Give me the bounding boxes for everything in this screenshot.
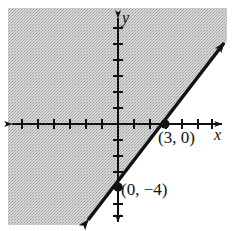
graph-canvas bbox=[0, 0, 233, 231]
point-label-y-intercept: (0, −4) bbox=[121, 181, 167, 198]
inequality-graph-figure: (3, 0) (0, −4) x y bbox=[0, 0, 233, 231]
point-label-x-intercept: (3, 0) bbox=[158, 129, 195, 146]
x-axis-label: x bbox=[214, 127, 221, 143]
y-axis-label: y bbox=[122, 10, 129, 26]
